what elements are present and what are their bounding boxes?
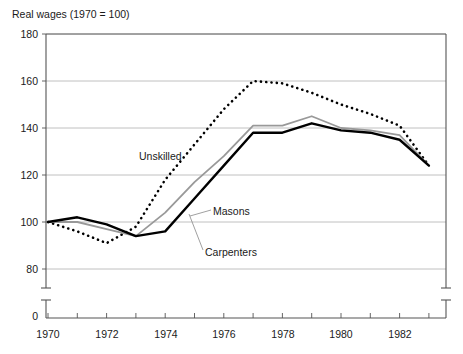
axis-ticks [42,34,429,318]
plot-area [0,0,463,354]
series-line-unskilled [48,81,429,243]
gridlines [46,34,446,269]
series-paths [48,81,429,243]
chart-figure: Real wages (1970 = 100) 180 160 140 120 … [0,0,463,354]
annotation-leader-lines [189,210,211,250]
axes [41,34,451,318]
